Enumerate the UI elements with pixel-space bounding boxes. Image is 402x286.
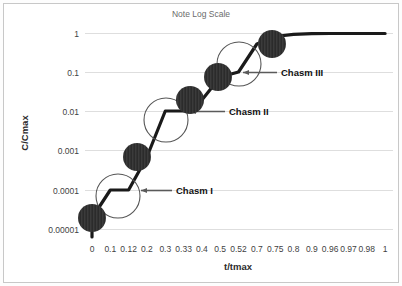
x-tick-label: 0.52 [230,244,247,254]
chasm-2-label: Chasm II [229,106,269,117]
x-tick-label: 0.98 [359,244,376,254]
chasm-annotations: Chasm I Chasm II Chasm III [141,67,323,196]
y-tick-label: 0.001 [58,146,80,156]
x-tick-label: 0.75 [267,244,284,254]
x-tick-label: 0.97 [340,244,357,254]
chart-title: Note Log Scale [172,9,230,19]
data-point-marker [78,204,106,232]
series-path [92,34,385,238]
chasm-3-label: Chasm III [281,67,323,78]
chart-figure: 1 0.1 0.01 0.001 0.0001 0.00001 0 0.1 0.… [0,0,402,286]
data-point-marker [258,30,286,58]
x-tick-label: 0.33 [175,244,192,254]
x-tick-label: 0 [90,244,95,254]
x-tick-label: 0.9 [306,244,318,254]
data-point-marker [204,63,232,91]
y-tick-label: 0.01 [62,107,79,117]
x-axis-title: t/tmax [224,261,253,272]
y-tick-label: 0.00001 [48,225,79,235]
x-tick-label: 1 [383,244,388,254]
y-tick-label: 0.0001 [53,186,79,196]
x-axis-tick-labels: 0 0.1 0.12 0.2 0.3 0.33 0.4 0.5 0.52 0.7… [90,244,388,254]
log-scale-chart: 1 0.1 0.01 0.001 0.0001 0.00001 0 0.1 0.… [0,0,402,286]
data-point-marker [176,86,204,114]
x-tick-label: 0.12 [120,244,137,254]
x-tick-label: 0.5 [214,244,226,254]
chasm-1-label: Chasm I [176,185,213,196]
y-axis-title: C/Cmax [19,115,30,151]
x-tick-label: 0.96 [322,244,339,254]
x-tick-label: 0.3 [159,244,171,254]
y-tick-label: 1 [74,29,79,39]
y-axis-tick-labels: 1 0.1 0.01 0.001 0.0001 0.00001 [48,29,79,235]
data-series-line [92,34,385,238]
x-tick-label: 0.4 [196,244,208,254]
x-tick-label: 0.8 [288,244,300,254]
gridlines [85,34,393,230]
x-tick-label: 0.1 [104,244,116,254]
x-tick-label: 0.7 [251,244,263,254]
y-tick-label: 0.1 [67,68,79,78]
x-tick-label: 0.2 [141,244,153,254]
data-point-markers [78,30,286,232]
data-point-marker [123,143,151,171]
